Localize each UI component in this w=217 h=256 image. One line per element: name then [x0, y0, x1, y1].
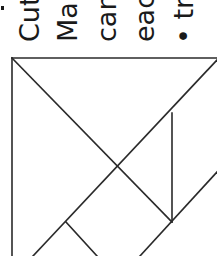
main-diagonal [12, 58, 172, 222]
tangram-diagram [0, 0, 217, 256]
anti-diagonal [33, 60, 217, 256]
lower-right-diagonal [140, 172, 217, 256]
small-perpendicular [66, 222, 97, 256]
